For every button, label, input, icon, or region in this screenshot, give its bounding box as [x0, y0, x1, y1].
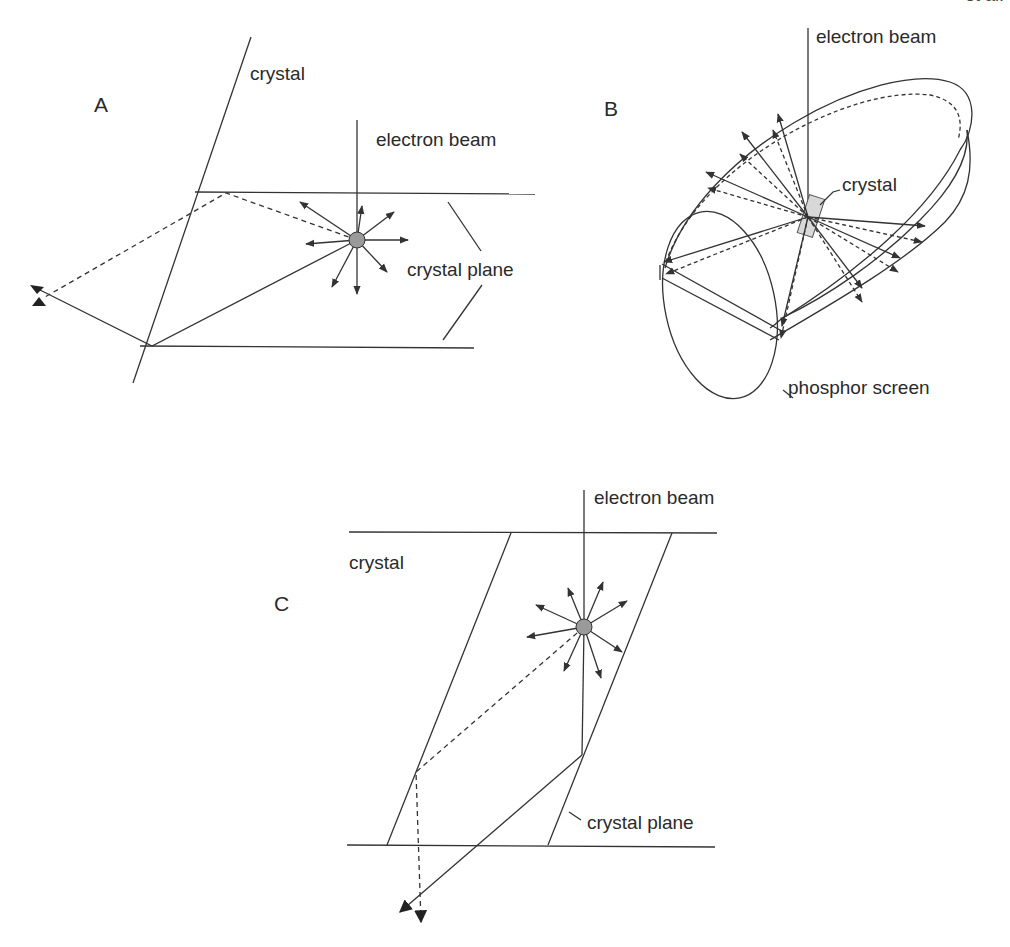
- crystal-plane-top-a: [195, 192, 535, 194]
- crystal-face-top-c: [349, 532, 717, 533]
- phosphor-screen-b: [646, 201, 793, 410]
- crystal-plane-right-c: [548, 533, 672, 845]
- scatter-arrows-a: [300, 202, 408, 294]
- electron-beam-label-c: electron beam: [594, 488, 714, 507]
- panel-b: [646, 28, 971, 409]
- crystal-edge-a: [133, 37, 251, 383]
- crystal-face-bottom-c: [347, 845, 715, 847]
- crystal-plane-bottom-a: [140, 346, 474, 348]
- crystal-label-a: crystal: [250, 64, 305, 83]
- electron-beam-label-a: electron beam: [376, 130, 496, 149]
- ray-fan-solid-b: [664, 114, 925, 326]
- diffraction-figure: [0, 0, 1010, 947]
- ray-fan-dashed-b: [666, 130, 922, 338]
- crystal-plane-label-c: crystal plane: [587, 813, 694, 832]
- phosphor-screen-label-b: phosphor screen: [788, 378, 930, 397]
- panel-label-b: B: [604, 98, 618, 119]
- crystal-plane-left-c: [387, 533, 511, 845]
- source-point-a: [349, 232, 365, 248]
- electron-beam-label-b: electron beam: [816, 27, 936, 46]
- panel-label-a: A: [94, 94, 108, 115]
- crystal-label-b: crystal: [842, 175, 897, 194]
- source-point-c: [576, 619, 592, 635]
- diffracted-ray-solid-c: [400, 755, 582, 912]
- diffracted-ray-solid-a: [32, 240, 357, 346]
- panel-label-c: C: [274, 593, 289, 614]
- panel-a: [30, 37, 535, 383]
- crystal-label-c: crystal: [349, 553, 404, 572]
- crystal-plane-label-a: crystal plane: [407, 260, 514, 279]
